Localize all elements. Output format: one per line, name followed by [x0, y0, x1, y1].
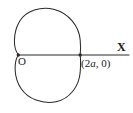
intercept-label-prefix: (2 [81, 57, 90, 69]
intercept-label-suffix: , 0) [96, 57, 111, 69]
origin-label: O [18, 56, 26, 67]
cardioid-figure: O X (2a, 0) [0, 0, 133, 113]
intercept-coordinate-label: (2a, 0) [81, 58, 110, 69]
cardioid-upper-lobe [14, 8, 80, 55]
x-axis-label: X [117, 41, 126, 53]
